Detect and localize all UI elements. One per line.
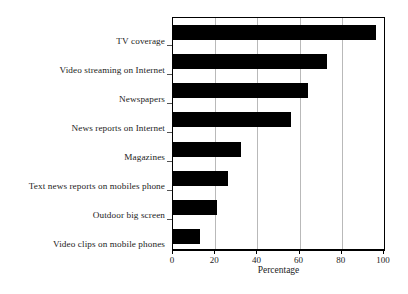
plot-area (172, 17, 385, 250)
bar-chart-figure: TV coverage Video streaming on Internet … (0, 0, 408, 294)
x-tick-label: 20 (199, 255, 229, 265)
category-label: Text news reports on mobiles phone (29, 181, 165, 191)
x-tick-label: 60 (284, 255, 314, 265)
bar-series (173, 18, 384, 249)
category-label: Magazines (124, 152, 165, 162)
category-label: News reports on Internet (72, 123, 165, 133)
category-label: Video streaming on Internet (60, 65, 165, 75)
bar (173, 25, 376, 40)
category-label: TV coverage (116, 36, 165, 46)
x-axis-title: Percentage (172, 265, 385, 275)
x-tick-label: 0 (157, 255, 187, 265)
x-tick-label: 40 (241, 255, 271, 265)
x-axis: 020406080100 (172, 250, 385, 251)
bar (173, 83, 308, 98)
category-label: Newspapers (119, 94, 165, 104)
bar (173, 54, 327, 69)
x-tick-mark (341, 250, 342, 254)
bar (173, 200, 217, 215)
category-label-column: TV coverage Video streaming on Internet … (0, 17, 169, 250)
x-tick-label: 100 (368, 255, 398, 265)
x-tick-mark (383, 250, 384, 254)
x-tick-mark (172, 250, 173, 254)
x-tick-label: 80 (326, 255, 356, 265)
bar (173, 171, 228, 186)
bar (173, 229, 200, 244)
bar (173, 112, 291, 127)
x-tick-mark (256, 250, 257, 254)
category-label: Outdoor big screen (93, 210, 165, 220)
x-tick-mark (214, 250, 215, 254)
bar (173, 142, 241, 157)
category-label: Video clips on mobile phones (53, 239, 165, 249)
x-tick-mark (299, 250, 300, 254)
